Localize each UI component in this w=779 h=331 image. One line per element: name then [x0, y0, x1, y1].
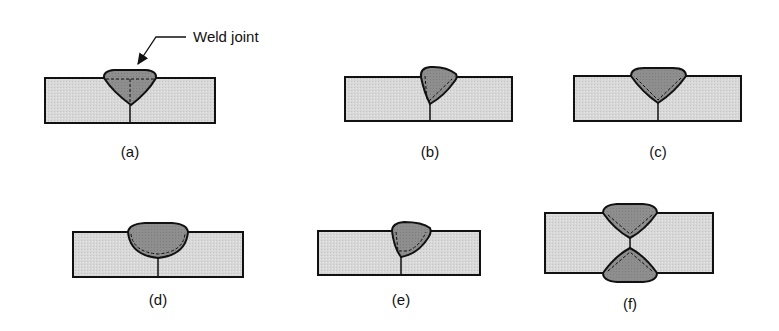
panel-a: Weld joint (a) [45, 28, 259, 160]
panel-f: (f) [545, 204, 713, 312]
panel-label-a: (a) [121, 143, 139, 160]
callout-label: Weld joint [193, 28, 259, 45]
callout-arrow [138, 37, 186, 64]
panel-e: (e) [318, 222, 480, 308]
panel-label-b: (b) [421, 143, 439, 160]
panel-d: (d) [73, 223, 243, 308]
panel-label-e: (e) [392, 291, 410, 308]
panel-label-f: (f) [623, 295, 637, 312]
panel-c: (c) [574, 68, 741, 160]
weld-joint-diagram: Weld joint (a) (b) (c) (d) (e) [0, 0, 779, 331]
panel-label-c: (c) [649, 143, 667, 160]
panel-b: (b) [345, 67, 512, 160]
panel-label-d: (d) [149, 291, 167, 308]
